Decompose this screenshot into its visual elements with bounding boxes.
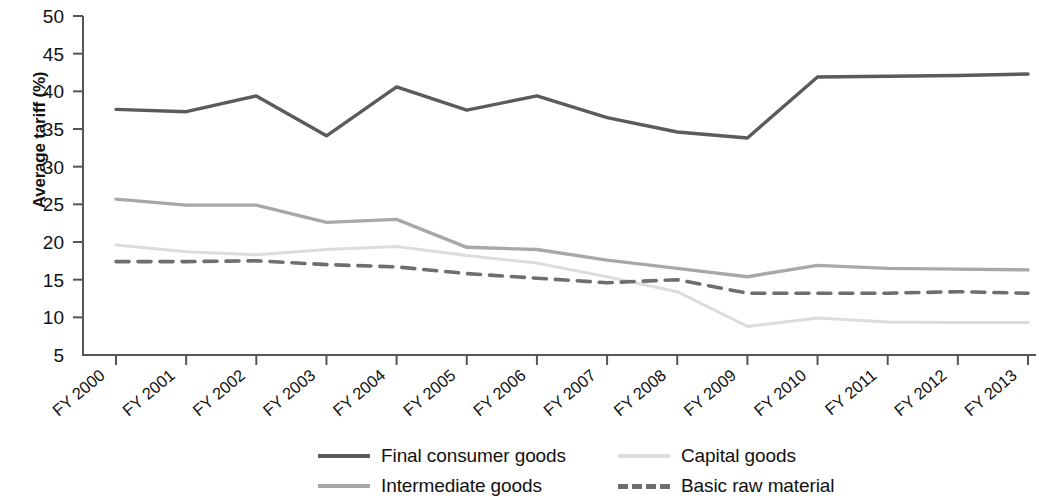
x-tick-label: FY 2007 [540,366,599,420]
x-tick-label: FY 2008 [610,366,669,420]
legend-item[interactable]: Basic raw material [618,475,878,497]
legend-swatch-icon [318,479,370,493]
x-tick-label: FY 2004 [329,366,388,420]
x-tick-label: FY 2001 [119,366,178,420]
y-tick-label: 10 [43,307,64,328]
y-tick-label: 30 [43,157,64,178]
line-chart-figure: Average tariff (%) 5101520253035404550 F… [0,0,1039,500]
series-line [116,74,1028,138]
x-tick-label: FY 2003 [259,366,318,420]
x-tick-label: FY 2011 [821,366,879,419]
y-tick-label: 35 [43,119,64,140]
y-tick-group [73,16,83,317]
legend-item-label: Capital goods [681,445,796,467]
x-tick-label: FY 2006 [470,366,529,420]
legend-swatch-icon [318,449,370,463]
legend-item-label: Final consumer goods [381,445,566,467]
legend-swatch-icon [618,479,670,493]
x-tick-label: FY 2010 [750,366,809,420]
data-series-group [116,74,1028,326]
x-tick-label-group: FY 2000FY 2001FY 2002FY 2003FY 2004FY 20… [49,366,1020,420]
x-tick-group [116,355,1028,365]
x-tick-label: FY 2002 [189,366,248,420]
y-tick-label: 25 [43,194,64,215]
series-line [116,245,1028,326]
legend-item-label: Intermediate goods [381,475,542,497]
legend-item[interactable]: Capital goods [618,445,878,467]
x-tick-label: FY 2013 [961,366,1020,420]
y-tick-label: 5 [53,345,64,366]
y-tick-label: 40 [43,81,64,102]
x-tick-label: FY 2012 [891,366,950,420]
plot-area: 5101520253035404550 FY 2000FY 2001FY 200… [0,0,1039,440]
legend-item[interactable]: Final consumer goods [318,445,618,467]
y-tick-label: 15 [43,270,64,291]
chart-legend: Final consumer goodsCapital goodsInterme… [318,441,878,500]
x-tick-label: FY 2009 [680,366,739,420]
legend-item-label: Basic raw material [681,475,834,497]
axis-lines [83,16,1036,355]
y-tick-label: 50 [43,6,64,27]
y-tick-label: 45 [43,44,64,65]
x-tick-label: FY 2000 [49,366,108,420]
series-line [116,261,1028,293]
y-tick-label: 20 [43,232,64,253]
x-tick-label: FY 2005 [400,366,459,420]
legend-item[interactable]: Intermediate goods [318,475,618,497]
y-tick-label-group: 5101520253035404550 [43,6,64,366]
series-line [116,199,1028,277]
legend-swatch-icon [618,449,670,463]
